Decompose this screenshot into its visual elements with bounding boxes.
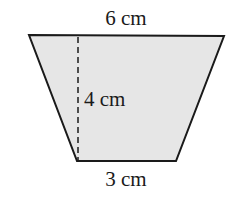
bottom-base-label: 3 cm bbox=[105, 167, 146, 191]
height-label: 4 cm bbox=[84, 87, 125, 111]
trapezoid-diagram: 6 cm 4 cm 3 cm bbox=[0, 0, 240, 207]
top-base-label: 6 cm bbox=[105, 6, 146, 30]
trapezoid-shape bbox=[29, 35, 224, 161]
